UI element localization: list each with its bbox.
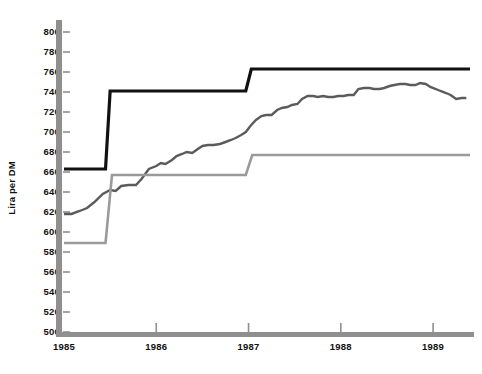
y-axis-tick [63, 71, 70, 73]
chart-container: Lira per DM 5005205405605806006206406606… [0, 0, 482, 374]
y-axis-tick [63, 111, 70, 113]
y-axis-tick [63, 91, 70, 93]
x-axis-line [56, 332, 474, 337]
x-axis-tick [432, 323, 434, 332]
series-line-lower-band [64, 155, 470, 243]
y-axis-line [56, 20, 62, 335]
y-axis-tick [63, 171, 70, 173]
y-axis-tick [63, 291, 70, 293]
y-axis-tick [63, 131, 70, 133]
y-axis-tick [63, 31, 70, 33]
series-line-market-rate [64, 83, 466, 214]
y-axis-tick [63, 151, 70, 153]
y-axis-tick [63, 331, 70, 333]
x-axis-tick [155, 323, 157, 332]
y-axis-tick [63, 311, 70, 313]
x-axis-tick [248, 323, 250, 332]
x-axis-tick [340, 323, 342, 332]
y-axis-tick [63, 271, 70, 273]
y-axis-tick [63, 51, 70, 53]
y-axis-tick [63, 211, 70, 213]
plot-area [0, 0, 482, 374]
y-axis-tick [63, 191, 70, 193]
y-axis-tick [63, 231, 70, 233]
y-axis-tick [63, 251, 70, 253]
